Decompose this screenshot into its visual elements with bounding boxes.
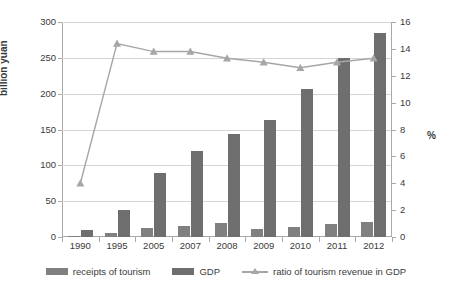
bar-swatch-icon bbox=[46, 268, 68, 275]
y-tick-label: 50 bbox=[18, 195, 56, 206]
bar-group bbox=[62, 22, 99, 237]
bar-group bbox=[135, 22, 172, 237]
y2-tick-mark bbox=[392, 183, 396, 184]
bar bbox=[361, 222, 373, 237]
legend-label: receipts of tourism bbox=[73, 266, 151, 277]
y-tick-label: 150 bbox=[18, 124, 56, 135]
x-tick-label: 2008 bbox=[209, 240, 246, 256]
legend-label: GDP bbox=[199, 266, 220, 277]
y2-tick-mark bbox=[392, 156, 396, 157]
y2-tick-label: 6 bbox=[400, 150, 430, 161]
y-tick-label: 0 bbox=[18, 231, 56, 242]
y2-tick-mark bbox=[392, 76, 396, 77]
y-tick-label: 200 bbox=[18, 88, 56, 99]
bar-swatch-icon bbox=[172, 268, 194, 275]
x-tick-label: 2012 bbox=[355, 240, 392, 256]
bar bbox=[215, 223, 227, 237]
bar bbox=[288, 227, 300, 237]
x-tick-label: 2010 bbox=[282, 240, 319, 256]
x-tick-mark bbox=[392, 237, 393, 242]
legend-item-receipts-of-tourism[interactable]: receipts of tourism bbox=[46, 266, 151, 277]
y2-tick-mark bbox=[392, 103, 396, 104]
bar-group bbox=[99, 22, 136, 237]
bar-group bbox=[282, 22, 319, 237]
y2-tick-mark bbox=[392, 22, 396, 23]
plot-area bbox=[62, 22, 392, 237]
y2-tick-label: 12 bbox=[400, 70, 430, 81]
bar-group bbox=[319, 22, 356, 237]
bar bbox=[374, 33, 386, 237]
bar-group bbox=[172, 22, 209, 237]
y-tick-label: 250 bbox=[18, 52, 56, 63]
legend-item-ratio-of-tourism-revenue-in-gdp[interactable]: ratio of tourism revenue in GDP bbox=[242, 266, 406, 277]
x-tick-label: 1995 bbox=[99, 240, 136, 256]
x-tick-label: 2007 bbox=[172, 240, 209, 256]
bar bbox=[228, 134, 240, 237]
y-axis-title-left: billion yuan bbox=[0, 40, 9, 96]
x-tick-label: 2011 bbox=[319, 240, 356, 256]
y2-tick-mark bbox=[392, 210, 396, 211]
bar bbox=[325, 224, 337, 237]
y-tick-label: 300 bbox=[18, 16, 56, 27]
bar bbox=[178, 226, 190, 237]
bar bbox=[301, 89, 313, 237]
bar bbox=[141, 228, 153, 237]
bar-series-layer bbox=[62, 22, 392, 237]
bar-group bbox=[355, 22, 392, 237]
bar bbox=[191, 151, 203, 237]
y-tick-label: 100 bbox=[18, 159, 56, 170]
y2-tick-label: 2 bbox=[400, 204, 430, 215]
bar bbox=[154, 173, 166, 237]
y2-tick-label: 0 bbox=[400, 231, 430, 242]
legend-label: ratio of tourism revenue in GDP bbox=[273, 266, 406, 277]
y2-tick-mark bbox=[392, 130, 396, 131]
bar bbox=[251, 229, 263, 237]
y2-tick-label: 4 bbox=[400, 177, 430, 188]
x-axis-tick-labels: 199019952005200720082009201020112012 bbox=[62, 240, 392, 256]
x-tick-label: 1990 bbox=[62, 240, 99, 256]
y2-tick-label: 14 bbox=[400, 43, 430, 54]
y2-tick-label: 16 bbox=[400, 16, 430, 27]
x-tick-label: 2005 bbox=[135, 240, 172, 256]
y2-tick-label: 10 bbox=[400, 97, 430, 108]
y2-tick-label: 8 bbox=[400, 124, 430, 135]
bar bbox=[264, 120, 276, 237]
legend-item-gdp[interactable]: GDP bbox=[172, 266, 220, 277]
bar-group bbox=[245, 22, 282, 237]
bar bbox=[338, 58, 350, 237]
chart-container: billion yuan % 050100150200250300 024681… bbox=[0, 0, 452, 291]
y2-tick-mark bbox=[392, 49, 396, 50]
chart-legend: receipts of tourism GDP ratio of tourism… bbox=[0, 266, 452, 277]
bar bbox=[81, 230, 93, 237]
line-marker-swatch-icon bbox=[242, 267, 268, 276]
bar bbox=[105, 233, 117, 237]
bar-group bbox=[209, 22, 246, 237]
bar bbox=[68, 236, 80, 237]
bar bbox=[118, 210, 130, 237]
x-tick-label: 2009 bbox=[245, 240, 282, 256]
